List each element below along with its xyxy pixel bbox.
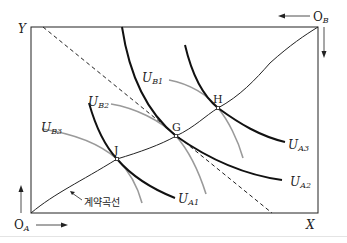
ua3-label: UA3 — [288, 138, 309, 153]
y-axis-label: Y — [18, 22, 27, 36]
box-frame — [31, 27, 318, 213]
point-j-label: J — [113, 144, 118, 157]
ua2-curve — [122, 27, 282, 180]
contract-curve-label: 계약곡선 — [84, 197, 120, 208]
price-line — [43, 27, 272, 213]
bottom-divider — [0, 236, 347, 237]
point-g-label: G — [172, 121, 181, 134]
edgeworth-box-diagram: J G H UB1 UB2 UB3 UA1 UA2 UA3 계약곡선 Y X O… — [0, 0, 347, 243]
point-j-marker — [116, 158, 119, 161]
point-h-marker — [217, 107, 220, 110]
ua2-label: UA2 — [290, 175, 311, 190]
origin-a-y-arrowhead — [19, 185, 24, 192]
x-axis-label: X — [305, 218, 315, 232]
origin-b-label: OB — [313, 10, 329, 25]
ub3-curve — [42, 129, 142, 203]
ub1-label: UB1 — [142, 71, 163, 86]
point-g-marker — [175, 135, 178, 138]
origin-a-x-arrowhead — [61, 223, 68, 228]
origin-a-label: OA — [14, 218, 30, 233]
ub3-label: UB3 — [41, 121, 62, 136]
origin-b-x-arrowhead — [278, 14, 285, 19]
contract-curve — [31, 27, 318, 213]
ub2-label: UB2 — [88, 95, 109, 110]
ua3-curve — [185, 45, 285, 142]
point-h-label: H — [213, 93, 223, 106]
ub1-curve — [169, 80, 243, 158]
contract-curve-pointer — [72, 193, 82, 200]
ua1-curve — [89, 103, 175, 198]
ua1-label: UA1 — [178, 192, 199, 207]
origin-b-y-arrowhead — [322, 51, 327, 58]
